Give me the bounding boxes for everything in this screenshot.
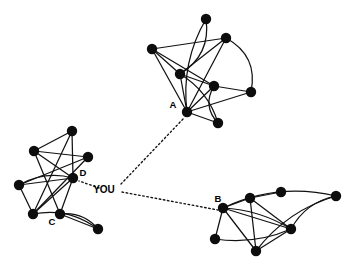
graph-node [201,14,211,24]
graph-node [83,152,93,162]
graph-node [55,209,65,219]
graph-node [221,33,231,43]
nodes-layer [14,14,341,256]
graph-edge [214,86,251,92]
graph-edge-curved [215,229,291,241]
network-diagram: ABCDYOU [0,0,356,267]
graph-edge [223,208,256,251]
graph-node [209,81,219,91]
graph-node [286,224,296,234]
bridges-layer [79,118,218,210]
graph-edge-curved [226,38,252,92]
graph-node [246,87,256,97]
network-graph-canvas: ABCDYOU [0,0,356,267]
graph-node [245,193,255,203]
graph-node [147,44,157,54]
graph-node [175,69,185,79]
graph-edge-curved [186,19,206,112]
graph-node [28,209,38,219]
graph-node [276,187,286,197]
graph-node [93,224,103,234]
edges-layer [19,19,336,251]
graph-edge [223,208,291,229]
graph-node [67,126,77,136]
bridge-you-to-b [122,192,218,210]
graph-node [68,173,78,183]
graph-edge [250,198,256,251]
graph-node [218,203,228,213]
label-d: D [80,167,87,178]
graph-node [210,234,220,244]
graph-node [251,246,261,256]
graph-node [14,180,24,190]
label-c: C [49,216,56,227]
ego-label-you: YOU [93,184,115,195]
bridge-you-to-a [121,118,184,184]
label-b: B [215,193,222,204]
graph-edge [72,131,73,178]
label-a: A [170,99,177,110]
graph-edge [152,49,180,74]
graph-node [331,191,341,201]
graph-node [29,146,39,156]
graph-node [182,107,192,117]
graph-edge [34,131,72,151]
graph-node [213,118,223,128]
